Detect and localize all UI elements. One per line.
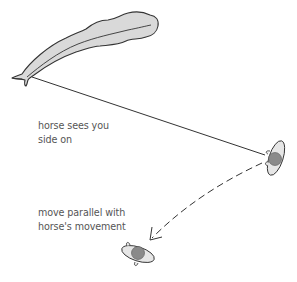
person-start-arm-upper bbox=[266, 151, 270, 154]
movement-path bbox=[152, 163, 262, 238]
move-parallel-line-1: move parallel with bbox=[38, 206, 126, 220]
horse-top-view-icon bbox=[12, 12, 158, 86]
person-start-icon bbox=[264, 139, 288, 178]
side-on-line-1: horse sees you bbox=[38, 119, 109, 133]
horse-body bbox=[12, 12, 158, 86]
diagram-canvas: horse sees you side on move parallel wit… bbox=[0, 0, 297, 282]
person-end-arm-lower bbox=[134, 262, 138, 266]
person-start-head bbox=[269, 153, 282, 166]
side-on-annotation: horse sees you side on bbox=[38, 119, 109, 147]
person-end-icon bbox=[120, 242, 157, 266]
side-on-line-2: side on bbox=[38, 133, 109, 147]
move-parallel-annotation: move parallel with horse's movement bbox=[38, 206, 126, 234]
move-parallel-line-2: horse's movement bbox=[38, 220, 126, 234]
person-end-head bbox=[132, 247, 145, 260]
